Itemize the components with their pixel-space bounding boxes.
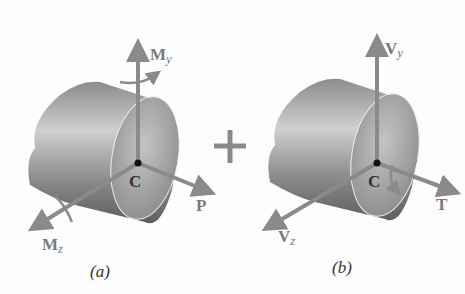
point-c-a xyxy=(135,160,142,167)
label-vz: Vz xyxy=(278,228,295,247)
label-vy: Vy xyxy=(385,40,403,59)
caption-a: (a) xyxy=(90,262,110,282)
label-p: P xyxy=(196,197,206,214)
label-t: T xyxy=(436,196,447,213)
label-c-b: C xyxy=(368,172,380,192)
label-my: My xyxy=(150,46,172,65)
diagram-stage: My P Mz C (a) Vy T Vz C (b) xyxy=(0,0,465,294)
plus-operator xyxy=(214,130,246,163)
label-mz: Mz xyxy=(42,236,63,255)
label-c-a: C xyxy=(129,172,141,192)
cylinder-a xyxy=(28,82,188,225)
point-c-b xyxy=(374,160,381,167)
cylinder-b xyxy=(268,79,428,222)
caption-b: (b) xyxy=(332,258,352,278)
